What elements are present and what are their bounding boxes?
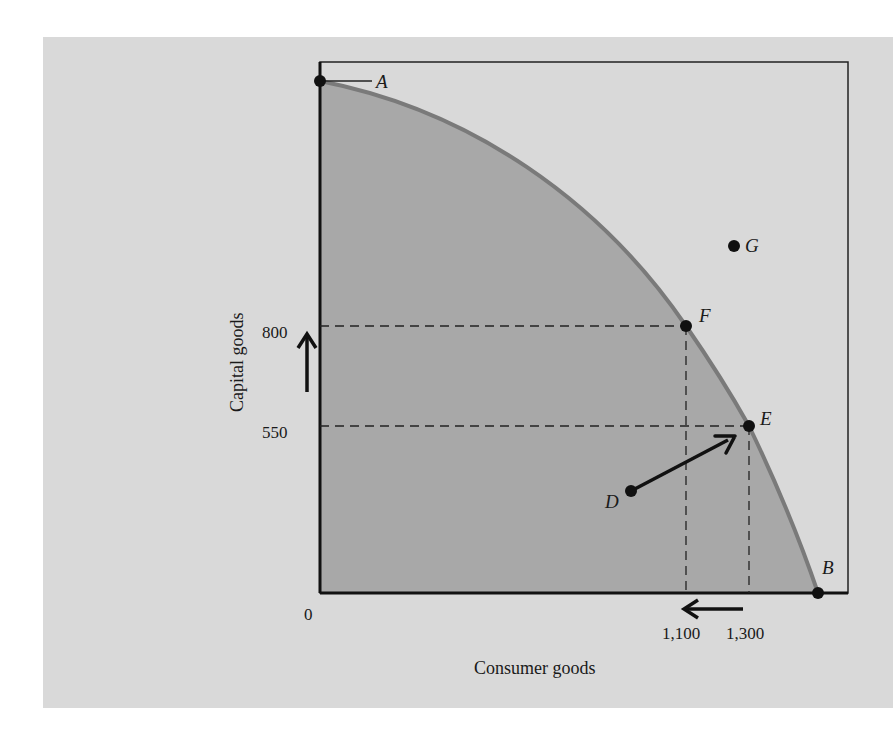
label-e: E [759,408,772,429]
y-axis-title: Capital goods [227,313,247,413]
ppf-chart: A B F E D G 800 550 0 1,100 1,300 Consum… [0,0,893,729]
feasible-region [320,81,818,593]
point-g [728,240,740,252]
x-axis-title: Consumer goods [474,658,596,678]
label-d: D [604,491,619,512]
label-f: F [698,305,711,326]
origin-label: 0 [304,605,313,624]
label-b: B [822,557,834,578]
label-g: G [745,235,759,256]
point-b [812,587,824,599]
point-e [743,420,755,432]
x-tick-1300: 1,300 [726,624,764,643]
y-tick-800: 800 [262,323,288,342]
y-tick-550: 550 [262,423,288,442]
point-d [625,485,637,497]
point-f [680,320,692,332]
point-a [314,75,326,87]
arrow-left-icon [684,600,743,618]
arrow-up-icon [298,334,316,392]
x-tick-1100: 1,100 [662,624,700,643]
label-a: A [374,71,388,92]
